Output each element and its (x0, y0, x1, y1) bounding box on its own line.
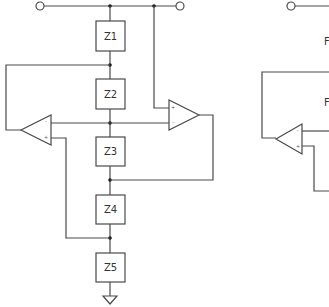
z3-label: Z3 (104, 146, 117, 157)
svg-text:+: + (296, 143, 300, 149)
output-terminal-icon (176, 2, 184, 10)
z5-label: Z5 (104, 262, 117, 273)
svg-text:+: + (44, 134, 48, 140)
svg-text:-: - (297, 127, 299, 133)
opamp-left: - + (21, 115, 51, 145)
svg-text:-: - (45, 118, 47, 124)
svg-text:+: + (171, 104, 175, 110)
circuit-diagram: Z1 Z2 Z3 Z4 Z5 - + + - F F (0, 0, 329, 307)
partial-label-1: F (324, 36, 329, 47)
partial-circuit-right: F F - + (262, 2, 329, 191)
z4-label: Z4 (104, 204, 117, 215)
input-terminal-icon (36, 2, 44, 10)
z1-label: Z1 (104, 31, 117, 42)
partial-label-2: F (324, 97, 329, 108)
z2-label: Z2 (104, 89, 117, 100)
terminal-icon (287, 2, 295, 10)
ground-icon (103, 296, 117, 304)
svg-text:-: - (172, 119, 174, 125)
opamp-right: + - (169, 100, 199, 130)
